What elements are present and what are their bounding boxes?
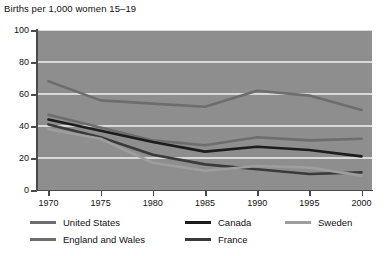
plot-lines-svg xyxy=(38,30,372,190)
legend-item-canada[interactable]: Canada xyxy=(185,217,251,228)
legend-swatch-england-and-wales xyxy=(30,238,56,242)
legend-label-united-states: United States xyxy=(63,217,120,228)
legend-item-england-and-wales[interactable]: England and Wales xyxy=(30,234,145,245)
x-axis-tick-1995 xyxy=(309,190,311,196)
legend-swatch-sweden xyxy=(285,221,311,225)
x-axis-tick-1970 xyxy=(48,190,50,196)
x-axis-tick-1990 xyxy=(257,190,259,196)
x-axis-tick-1975 xyxy=(101,190,103,196)
x-axis-label-1990: 1990 xyxy=(237,198,277,208)
x-axis-tick-2000 xyxy=(362,190,364,196)
y-axis-label-100: 100 xyxy=(1,26,29,35)
series-lines xyxy=(48,81,361,175)
x-axis-label-1995: 1995 xyxy=(289,198,329,208)
legend-swatch-canada xyxy=(185,221,211,225)
chart-legend: United States Canada Sweden England and … xyxy=(0,214,385,254)
legend-label-france: France xyxy=(218,234,248,245)
legend-label-england-and-wales: England and Wales xyxy=(63,234,145,245)
legend-label-canada: Canada xyxy=(218,217,251,228)
legend-item-france[interactable]: France xyxy=(185,234,248,245)
legend-item-united-states[interactable]: United States xyxy=(30,217,120,228)
y-axis-label-40: 40 xyxy=(1,122,29,131)
series-line-france xyxy=(48,124,361,174)
x-axis-label-1975: 1975 xyxy=(81,198,121,208)
x-axis-label-2000: 2000 xyxy=(342,198,382,208)
legend-label-sweden: Sweden xyxy=(318,217,352,228)
x-axis-tick-1985 xyxy=(205,190,207,196)
legend-item-sweden[interactable]: Sweden xyxy=(285,217,352,228)
plot-area xyxy=(38,30,372,190)
y-axis-label-60: 60 xyxy=(1,90,29,99)
series-line-united-states xyxy=(48,81,361,110)
y-axis-label-80: 80 xyxy=(1,58,29,67)
x-axis-label-1970: 1970 xyxy=(28,198,68,208)
legend-swatch-united-states xyxy=(30,221,56,225)
x-axis-tick-1980 xyxy=(153,190,155,196)
births-per-1000-women-line-chart: Births per 1,000 women 15–19 100 80 60 4… xyxy=(0,0,385,256)
y-axis-label-0: 0 xyxy=(1,186,29,195)
legend-swatch-france xyxy=(185,238,211,242)
x-axis-label-1980: 1980 xyxy=(133,198,173,208)
y-axis-label-20: 20 xyxy=(1,154,29,163)
x-axis-label-1985: 1985 xyxy=(185,198,225,208)
y-axis-line xyxy=(36,29,38,191)
